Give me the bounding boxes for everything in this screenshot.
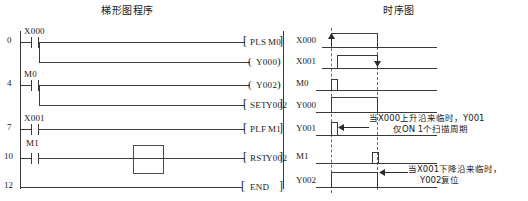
rung4-wire-right bbox=[39, 85, 250, 86]
contact-label-x001: X001 bbox=[24, 114, 45, 123]
timing-diagram-title: 时序图 bbox=[383, 6, 415, 16]
rung0-bracket-close: ] bbox=[279, 35, 283, 47]
rung1-wire bbox=[39, 62, 250, 63]
rung12-bracket-close: ] bbox=[279, 180, 283, 192]
x000-baseline bbox=[322, 47, 437, 48]
signal-label-x000: X000 bbox=[296, 36, 316, 45]
m0-pulse-rising bbox=[331, 79, 332, 90]
rung12-wire bbox=[20, 187, 242, 188]
annotation-1-leader-arrow-icon bbox=[337, 123, 369, 132]
coil-y000: Y000 bbox=[256, 58, 277, 67]
rung-number-10: 10 bbox=[4, 152, 13, 161]
x001-high-level bbox=[337, 55, 377, 56]
rung-number-4: 4 bbox=[7, 79, 12, 88]
rung0-branch-vertical bbox=[39, 42, 40, 62]
annotation-1-line-2: 仅ON 1个扫描周期 bbox=[393, 124, 468, 135]
signal-label-m1: M1 bbox=[296, 152, 309, 161]
ladder-diagram-title: 梯形图程序 bbox=[101, 6, 154, 16]
rung-number-7: 7 bbox=[7, 123, 12, 132]
rung7-wire-right bbox=[39, 129, 245, 130]
y001-baseline bbox=[316, 135, 437, 136]
rung12-bracket-open: [ bbox=[241, 180, 245, 192]
rung10-wire-left bbox=[20, 158, 31, 159]
y000-falling-edge bbox=[377, 97, 378, 112]
rung4-wire-left bbox=[20, 85, 31, 86]
contact-label-x000: X000 bbox=[24, 27, 45, 36]
signal-label-y000: Y000 bbox=[296, 101, 316, 110]
operand-rst-y002: Y002 bbox=[266, 154, 287, 163]
instruction-set: SET bbox=[250, 101, 267, 110]
highlight-box[interactable] bbox=[133, 145, 164, 174]
rung7-bracket-open: [ bbox=[243, 122, 247, 134]
instruction-end: END bbox=[250, 183, 269, 192]
m1-pulse-rising bbox=[372, 152, 373, 163]
rung10-bracket-close: ] bbox=[279, 151, 283, 163]
coil-y001: Y002 bbox=[256, 81, 277, 90]
y002-rising-edge bbox=[331, 172, 332, 187]
rung4b-wire bbox=[39, 105, 245, 106]
rung7-bracket-close: ] bbox=[279, 122, 283, 134]
rung7-wire-left bbox=[20, 129, 31, 130]
x000-falling-edge bbox=[377, 33, 378, 47]
left-power-rail bbox=[20, 31, 21, 189]
rung4b-bracket-close: ] bbox=[279, 98, 283, 110]
x001-baseline bbox=[322, 68, 437, 69]
coil-close-y000: ) bbox=[277, 56, 281, 67]
instruction-rst: RST bbox=[250, 154, 267, 163]
instruction-plf: PLF bbox=[250, 125, 266, 134]
annotation-2-line-1: 当X001下降沿来临时， bbox=[408, 164, 502, 175]
x001-rising-edge bbox=[337, 55, 338, 68]
rung0-wire-right bbox=[39, 42, 245, 43]
y000-rising-edge bbox=[331, 97, 332, 112]
operand-set-y002: Y002 bbox=[266, 101, 287, 110]
rung0-bracket-open: [ bbox=[243, 35, 247, 47]
coil-open-y000: ( bbox=[248, 56, 252, 67]
contact-label-m0: M0 bbox=[24, 70, 37, 79]
m1-pulse-falling bbox=[378, 152, 379, 163]
y001-pulse-rising bbox=[331, 122, 332, 135]
y000-high-level bbox=[331, 97, 377, 98]
signal-label-m0: M0 bbox=[296, 79, 309, 88]
annotation-2-leader-arrow-icon bbox=[378, 168, 408, 177]
x001-falling-edge-arrow-icon bbox=[373, 56, 382, 68]
instruction-pls: PLS bbox=[250, 38, 266, 47]
m0-pulse-falling bbox=[337, 79, 338, 90]
rung-number-0: 0 bbox=[7, 36, 12, 45]
rung4b-bracket-open: [ bbox=[243, 98, 247, 110]
y002-baseline bbox=[316, 187, 437, 188]
right-power-rail bbox=[283, 31, 284, 189]
annotation-1-line-1: 当X000上升沿来临时，Y001 bbox=[369, 113, 484, 124]
signal-label-y002: Y002 bbox=[296, 176, 316, 185]
y002-high-level bbox=[331, 172, 377, 173]
x000-high-level bbox=[331, 33, 377, 34]
figure-root: 梯形图程序 时序图 0 X000 [ PLS M0 ] ( Y000 ) 4 M… bbox=[0, 0, 528, 201]
rung-number-12: 12 bbox=[4, 181, 13, 190]
x000-rising-edge-arrow-icon bbox=[327, 32, 336, 44]
contact-label-m1: M1 bbox=[26, 139, 39, 148]
m0-baseline bbox=[316, 90, 437, 91]
rung10-bracket-open: [ bbox=[243, 151, 247, 163]
signal-label-x001: X001 bbox=[296, 57, 316, 66]
annotation-2-line-2: Y002复位 bbox=[420, 175, 459, 186]
coil-open-y001: ( bbox=[248, 79, 252, 90]
signal-label-y001: Y001 bbox=[296, 124, 316, 133]
rung4-branch-vertical bbox=[39, 85, 40, 105]
rung0-wire-left bbox=[20, 42, 31, 43]
coil-close-y001: ) bbox=[277, 79, 281, 90]
